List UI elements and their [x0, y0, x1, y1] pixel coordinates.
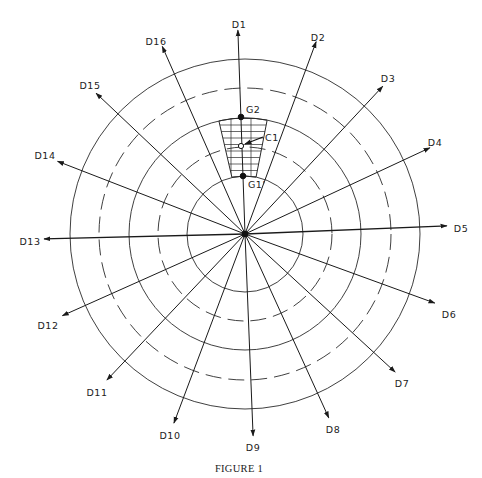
ray-d7 [245, 234, 395, 372]
ray-d15 [96, 93, 245, 234]
ray-d13 [44, 234, 245, 239]
ray-d4 [245, 148, 430, 234]
point-g1 [240, 173, 246, 179]
point-label-c1: C1 [265, 132, 279, 143]
point-c1 [238, 143, 243, 148]
ray-d6 [245, 234, 435, 303]
label-d3: D3 [381, 73, 395, 84]
label-d5: D5 [454, 223, 468, 234]
label-d2: D2 [311, 32, 325, 43]
point-label-g2: G2 [246, 104, 260, 115]
figure-caption: FIGURE 1 [215, 463, 263, 474]
ray-d9 [245, 234, 253, 436]
label-d13: D13 [20, 236, 41, 247]
polar-direction-diagram: D1D2D3D4D5D6D7D8D9D10D11D12D13D14D15D16 … [0, 0, 482, 478]
label-d16: D16 [146, 36, 167, 47]
ray-d1 [238, 30, 245, 234]
label-d10: D10 [160, 430, 181, 441]
ray-d10 [174, 234, 245, 423]
ray-d16 [162, 46, 245, 234]
label-d12: D12 [38, 320, 59, 331]
ray-d12 [62, 234, 245, 316]
ray-d5 [245, 226, 447, 234]
label-d1: D1 [232, 19, 246, 30]
ray-d11 [107, 234, 245, 380]
label-d11: D11 [87, 387, 108, 398]
label-d4: D4 [428, 137, 442, 148]
ray-d3 [245, 86, 383, 234]
point-g2 [238, 114, 244, 120]
marked-points: G2C1G1' [238, 104, 278, 190]
label-d15: D15 [80, 80, 101, 91]
label-d14: D14 [35, 150, 56, 161]
label-d9: D9 [246, 442, 260, 453]
ray-d14 [58, 161, 245, 234]
label-d6: D6 [442, 309, 456, 320]
point-label-g1: G1' [248, 179, 266, 190]
label-d7: D7 [395, 378, 409, 389]
label-d8: D8 [326, 424, 340, 435]
center-point [242, 231, 248, 237]
